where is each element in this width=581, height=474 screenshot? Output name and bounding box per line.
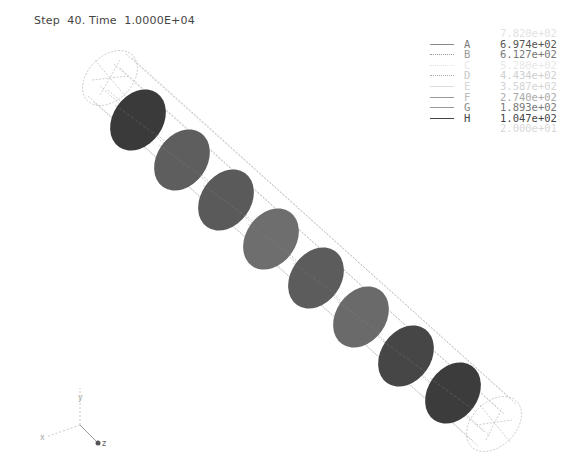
axis-z-label: z bbox=[102, 439, 106, 448]
legend-line-f bbox=[430, 97, 454, 98]
legend-bottom-row: 2.000e+01 bbox=[430, 123, 580, 134]
axis-x-label: x bbox=[40, 433, 45, 442]
legend-key-e: E bbox=[464, 81, 470, 92]
legend-top-row: 7.820e+02 bbox=[430, 28, 580, 39]
axis-x-line bbox=[46, 425, 80, 437]
legend-line-c bbox=[430, 65, 454, 66]
legend-value-e: 3.587e+02 bbox=[500, 81, 557, 92]
contour-legend: 7.820e+02 A 6.974e+02 B 6.127e+02 C 5.28… bbox=[430, 28, 580, 134]
legend-key-h: H bbox=[464, 113, 470, 124]
legend-line-e bbox=[430, 86, 454, 87]
legend-line-g bbox=[430, 107, 454, 108]
axis-z-line bbox=[80, 425, 98, 443]
legend-row-e: E 3.587e+02 bbox=[430, 81, 580, 92]
axis-y-label: y bbox=[78, 393, 83, 402]
legend-line-a bbox=[430, 44, 454, 45]
legend-max-value: 7.820e+02 bbox=[500, 28, 557, 39]
legend-line-b bbox=[430, 54, 454, 55]
legend-min-value: 2.000e+01 bbox=[500, 123, 557, 134]
legend-line-d bbox=[430, 75, 454, 76]
axis-z-marker bbox=[96, 441, 101, 446]
legend-line-h bbox=[430, 118, 454, 119]
axes-triad: y x z bbox=[40, 388, 106, 448]
